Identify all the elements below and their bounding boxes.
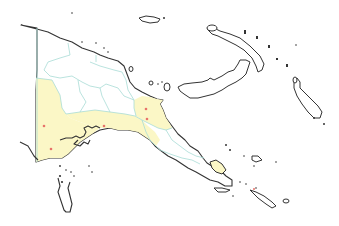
bougainville	[294, 78, 322, 118]
southern-islets	[59, 165, 93, 183]
new-hanover	[207, 25, 217, 31]
marker-dot[interactable]	[145, 108, 148, 111]
marker-dot[interactable]	[103, 125, 106, 128]
new-britain	[178, 60, 250, 98]
buka	[293, 77, 297, 83]
map-canvas	[0, 0, 339, 226]
new-ireland	[207, 28, 264, 72]
marker-dot[interactable]	[50, 148, 53, 151]
marker-dot[interactable]	[146, 118, 149, 121]
marker-dot[interactable]	[43, 125, 46, 128]
